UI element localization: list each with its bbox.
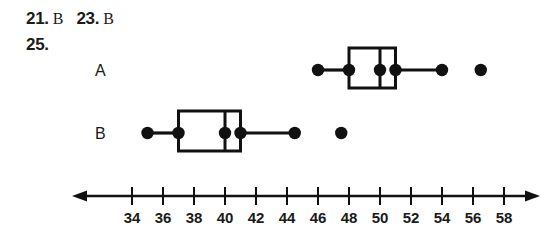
axis-tick-label-44: 44 xyxy=(279,209,296,226)
series-label-a: A xyxy=(95,62,106,79)
box-a xyxy=(349,48,396,88)
data-point-a-1 xyxy=(343,64,355,76)
axis-arrow-left xyxy=(72,191,87,202)
data-point-a-4 xyxy=(436,64,448,76)
data-point-a-0 xyxy=(312,64,324,76)
data-point-a-5 xyxy=(475,64,487,76)
data-point-b-1 xyxy=(172,127,184,139)
axis-tick-label-38: 38 xyxy=(186,209,203,226)
axis-tick-label-46: 46 xyxy=(310,209,327,226)
data-point-b-0 xyxy=(141,127,153,139)
axis-tick-label-40: 40 xyxy=(217,209,234,226)
axis-tick-label-42: 42 xyxy=(248,209,265,226)
series-labels: A B xyxy=(95,62,106,142)
axis-tick-labels: 34363840424446485052545658 xyxy=(124,209,513,226)
data-point-a-2 xyxy=(374,64,386,76)
axis-arrow-right xyxy=(525,191,540,202)
data-point-b-4 xyxy=(289,127,301,139)
box-b xyxy=(179,111,241,151)
axis-tick-label-48: 48 xyxy=(341,209,358,226)
data-point-a-3 xyxy=(389,64,401,76)
series-label-b: B xyxy=(95,125,106,142)
data-point-b-5 xyxy=(335,127,347,139)
axis-tick-label-50: 50 xyxy=(372,209,389,226)
axis-tick-label-52: 52 xyxy=(403,209,420,226)
axis-tick-label-54: 54 xyxy=(434,209,451,226)
axis-tick-label-34: 34 xyxy=(124,209,141,226)
data-point-b-3 xyxy=(234,127,246,139)
axis-tick-label-56: 56 xyxy=(465,209,482,226)
axis-tick-label-58: 58 xyxy=(496,209,513,226)
boxplot-series-b xyxy=(141,111,347,151)
number-line-axis xyxy=(72,187,540,205)
data-point-b-2 xyxy=(219,127,231,139)
boxplot-series-a xyxy=(312,48,487,88)
boxplot-figure: A B 34363840424446485052545658 xyxy=(0,0,558,236)
axis-tick-label-36: 36 xyxy=(155,209,172,226)
